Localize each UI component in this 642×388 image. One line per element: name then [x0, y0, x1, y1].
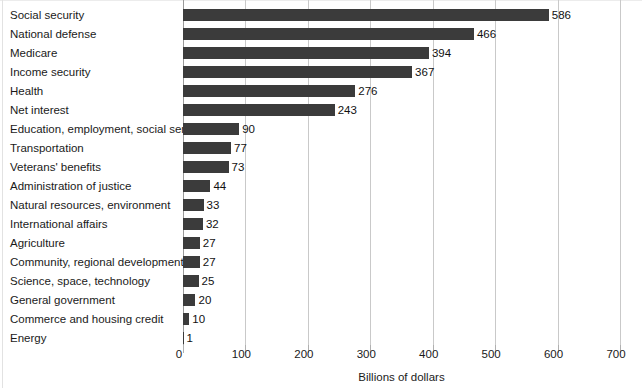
bar-row: National defense466 — [0, 25, 642, 44]
bar-track: 32 — [183, 218, 620, 230]
bar-value-label: 77 — [234, 141, 247, 155]
category-label: Science, space, technology — [10, 274, 178, 288]
category-label: Agriculture — [10, 236, 178, 250]
bar-track: 25 — [183, 275, 620, 287]
bar-row: Commerce and housing credit10 — [0, 310, 642, 329]
bar-value-label: 1 — [187, 331, 193, 345]
bar-row: Transportation77 — [0, 139, 642, 158]
bar — [183, 9, 549, 21]
bar-track: 10 — [183, 313, 620, 325]
bar-value-label: 27 — [203, 255, 216, 269]
bar-value-label: 33 — [207, 198, 220, 212]
bar — [183, 237, 200, 249]
x-tick-label: 400 — [419, 347, 438, 361]
bar-value-label: 243 — [338, 103, 357, 117]
bar-track: 27 — [183, 256, 620, 268]
x-tick-label: 500 — [482, 347, 501, 361]
bar-value-label: 20 — [198, 293, 211, 307]
x-tick-label: 100 — [232, 347, 251, 361]
bar-value-label: 25 — [202, 274, 215, 288]
bar — [183, 294, 195, 306]
category-label: Energy — [10, 331, 178, 345]
x-tick-label: 200 — [294, 347, 313, 361]
bar-track: 33 — [183, 199, 620, 211]
bar — [183, 199, 204, 211]
bar — [183, 66, 412, 78]
bar-row: Medicare394 — [0, 44, 642, 63]
category-label: Medicare — [10, 46, 178, 60]
bar-value-label: 10 — [192, 312, 205, 326]
bar-row: International affairs32 — [0, 215, 642, 234]
bar — [183, 180, 210, 192]
bar-value-label: 586 — [552, 8, 571, 22]
bar-track: 586 — [183, 9, 620, 21]
bar-row: General government20 — [0, 291, 642, 310]
bar-track: 1 — [183, 332, 620, 344]
bar-track: 44 — [183, 180, 620, 192]
bar-value-label: 73 — [232, 160, 245, 174]
bar-value-label: 90 — [242, 122, 255, 136]
bar — [183, 256, 200, 268]
bar-row: Natural resources, environment33 — [0, 196, 642, 215]
bar — [183, 47, 429, 59]
x-tick-label: 700 — [606, 347, 625, 361]
category-label: Commerce and housing credit — [10, 312, 178, 326]
category-label: Veterans' benefits — [10, 160, 178, 174]
bar — [183, 332, 184, 344]
category-label: General government — [10, 293, 178, 307]
x-tick-label: 300 — [357, 347, 376, 361]
bar — [183, 161, 229, 173]
bar-track: 367 — [183, 66, 620, 78]
bar-row: Net interest243 — [0, 101, 642, 120]
bar — [183, 275, 199, 287]
bar — [183, 28, 474, 40]
x-tick-label: 0 — [176, 347, 182, 361]
bar-value-label: 466 — [477, 27, 496, 41]
bar-row: Education, employment, social services90 — [0, 120, 642, 139]
bar-row: Science, space, technology25 — [0, 272, 642, 291]
bar-row: Agriculture27 — [0, 234, 642, 253]
bar — [183, 218, 203, 230]
bar-value-label: 32 — [206, 217, 219, 231]
bar-track: 27 — [183, 237, 620, 249]
category-label: Administration of justice — [10, 179, 178, 193]
x-axis-title: Billions of dollars — [183, 371, 620, 383]
bar-value-label: 44 — [213, 179, 226, 193]
category-label: Transportation — [10, 141, 178, 155]
bar-value-label: 394 — [432, 46, 451, 60]
bar — [183, 123, 239, 135]
bar-track: 276 — [183, 85, 620, 97]
bar-value-label: 367 — [415, 65, 434, 79]
bar-row: Veterans' benefits73 — [0, 158, 642, 177]
category-label: Income security — [10, 65, 178, 79]
category-label: Education, employment, social services — [10, 122, 178, 136]
bar-track: 20 — [183, 294, 620, 306]
bar-track: 73 — [183, 161, 620, 173]
bar — [183, 85, 355, 97]
bar-track: 77 — [183, 142, 620, 154]
x-tick-label: 600 — [544, 347, 563, 361]
bar-track: 243 — [183, 104, 620, 116]
bar — [183, 313, 189, 325]
category-label: Net interest — [10, 103, 178, 117]
bar — [183, 104, 335, 116]
category-label: National defense — [10, 27, 178, 41]
bar-row: Administration of justice44 — [0, 177, 642, 196]
category-label: Social security — [10, 8, 178, 22]
bar-chart-figure: Social security586National defense466Med… — [0, 0, 642, 388]
bar-row: Energy1 — [0, 329, 642, 348]
bar-row: Health276 — [0, 82, 642, 101]
bar-track: 394 — [183, 47, 620, 59]
bar-value-label: 276 — [358, 84, 377, 98]
category-label: Natural resources, environment — [10, 198, 178, 212]
bar-value-label: 27 — [203, 236, 216, 250]
bar-track: 90 — [183, 123, 620, 135]
bar-row: Income security367 — [0, 63, 642, 82]
bar — [183, 142, 231, 154]
category-label: International affairs — [10, 217, 178, 231]
bar-track: 466 — [183, 28, 620, 40]
category-label: Health — [10, 84, 178, 98]
category-label: Community, regional development — [10, 255, 178, 269]
bar-row: Social security586 — [0, 6, 642, 25]
bar-row: Community, regional development27 — [0, 253, 642, 272]
